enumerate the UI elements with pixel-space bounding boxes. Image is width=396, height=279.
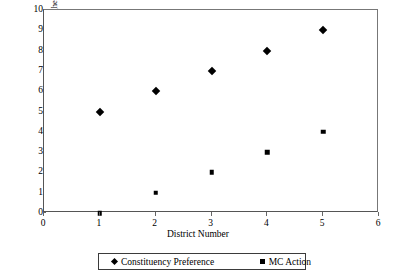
y-tick-label: 8 [21, 45, 43, 55]
y-tick-label: 3 [21, 146, 43, 156]
data-point-diamond [207, 67, 215, 75]
y-tick-label: 5 [21, 106, 43, 116]
data-point-square [321, 130, 326, 135]
scatter-chart-figure: Policy (Conservative values higher) 0123… [0, 0, 396, 279]
x-tick-mark [99, 212, 100, 216]
x-tick-label: 2 [140, 218, 170, 229]
square-marker-icon [260, 259, 265, 264]
data-point-diamond [96, 107, 104, 115]
y-axis-tick-labels: 012345678910 [0, 9, 43, 212]
legend-label: Constituency Preference [121, 257, 214, 267]
legend-item-constituency-preference: Constituency Preference [112, 257, 214, 267]
legend-label: MC Action [269, 257, 312, 267]
x-tick-label: 5 [307, 218, 337, 229]
x-tick-label: 3 [196, 218, 226, 229]
y-tick-label: 1 [21, 187, 43, 197]
y-tick-label: 6 [21, 85, 43, 95]
chart-legend: Constituency Preference MC Action [98, 253, 306, 270]
x-tick-mark [43, 212, 44, 216]
y-tick-label: 10 [21, 4, 43, 14]
x-tick-mark [155, 212, 156, 216]
x-tick-mark [266, 212, 267, 216]
data-point-diamond [151, 87, 159, 95]
data-point-diamond [263, 46, 271, 54]
data-point-square [209, 170, 214, 175]
x-tick-label: 1 [84, 218, 114, 229]
x-tick-mark [378, 212, 379, 216]
diamond-marker-icon [111, 258, 118, 265]
data-point-square [265, 150, 270, 155]
x-tick-mark [322, 212, 323, 216]
x-tick-label: 0 [28, 218, 58, 229]
x-axis-title: District Number [0, 229, 396, 239]
y-tick-label: 0 [21, 207, 43, 217]
y-tick-label: 9 [21, 24, 43, 34]
x-tick-label: 6 [363, 218, 393, 229]
y-tick-label: 7 [21, 65, 43, 75]
data-point-square [153, 190, 158, 195]
x-tick-mark [211, 212, 212, 216]
x-tick-label: 4 [251, 218, 281, 229]
data-point-diamond [319, 26, 327, 34]
y-tick-label: 4 [21, 126, 43, 136]
legend-item-mc-action: MC Action [260, 257, 311, 267]
plot-area [43, 9, 378, 212]
y-tick-label: 2 [21, 166, 43, 176]
